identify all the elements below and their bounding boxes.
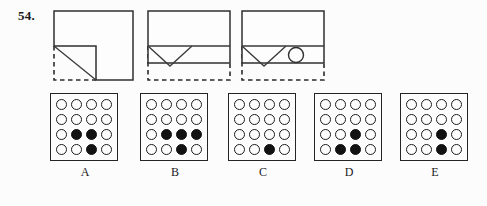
grid-cell — [318, 142, 333, 157]
grid-cell — [247, 142, 262, 157]
empty-hole-icon — [350, 114, 361, 125]
option-e-grid[interactable] — [400, 93, 468, 161]
grid-cell — [159, 142, 174, 157]
filled-hole-icon — [350, 129, 361, 140]
empty-hole-icon — [56, 99, 67, 110]
grid-cell — [449, 112, 464, 127]
grid-cell — [404, 142, 419, 157]
grid-cell — [262, 112, 277, 127]
grid-cell — [174, 127, 189, 142]
grid-cell — [262, 142, 277, 157]
empty-hole-icon — [146, 144, 157, 155]
grid-cell — [333, 97, 348, 112]
empty-hole-icon — [146, 114, 157, 125]
empty-hole-icon — [451, 114, 462, 125]
filled-hole-icon — [86, 129, 97, 140]
grid-cell — [84, 142, 99, 157]
grid-cell — [348, 97, 363, 112]
empty-hole-icon — [101, 144, 112, 155]
empty-hole-icon — [406, 99, 417, 110]
grid-cell — [434, 127, 449, 142]
empty-hole-icon — [71, 114, 82, 125]
question-number: 54. — [18, 8, 35, 24]
grid-cell — [348, 112, 363, 127]
grid-cell — [69, 97, 84, 112]
option-a[interactable]: A — [50, 93, 120, 178]
grid-cell — [99, 112, 114, 127]
grid-cell — [144, 97, 159, 112]
grid-cell — [277, 97, 292, 112]
empty-hole-icon — [451, 144, 462, 155]
fold-step-3 — [238, 8, 330, 84]
grid-cell — [69, 127, 84, 142]
grid-cell — [363, 127, 378, 142]
empty-hole-icon — [279, 144, 290, 155]
empty-hole-icon — [406, 144, 417, 155]
grid-cell — [232, 97, 247, 112]
grid-cell — [144, 127, 159, 142]
empty-hole-icon — [320, 114, 331, 125]
grid-cell — [419, 112, 434, 127]
empty-hole-icon — [279, 129, 290, 140]
grid-cell — [348, 127, 363, 142]
filled-hole-icon — [161, 129, 172, 140]
grid-cell — [277, 142, 292, 157]
empty-hole-icon — [365, 99, 376, 110]
filled-hole-icon — [176, 129, 187, 140]
grid-cell — [189, 112, 204, 127]
empty-hole-icon — [86, 114, 97, 125]
grid-cell — [174, 142, 189, 157]
empty-hole-icon — [421, 144, 432, 155]
grid-cell — [404, 97, 419, 112]
empty-hole-icon — [161, 99, 172, 110]
grid-cell — [99, 142, 114, 157]
option-a-grid[interactable] — [50, 93, 118, 161]
empty-hole-icon — [249, 129, 260, 140]
empty-hole-icon — [264, 114, 275, 125]
option-e[interactable]: E — [400, 93, 470, 178]
grid-cell — [159, 97, 174, 112]
answer-options-row: A B C D E — [50, 93, 487, 193]
grid-cell — [84, 112, 99, 127]
option-b[interactable]: B — [140, 93, 210, 178]
empty-hole-icon — [421, 114, 432, 125]
grid-cell — [434, 142, 449, 157]
grid-cell — [99, 127, 114, 142]
empty-hole-icon — [191, 144, 202, 155]
grid-cell — [404, 127, 419, 142]
fold-step-1 — [50, 8, 137, 84]
filled-hole-icon — [191, 129, 202, 140]
option-c[interactable]: C — [228, 93, 298, 178]
grid-cell — [333, 112, 348, 127]
grid-cell — [189, 127, 204, 142]
option-c-grid[interactable] — [228, 93, 296, 161]
filled-hole-icon — [436, 129, 447, 140]
grid-cell — [54, 142, 69, 157]
grid-cell — [404, 112, 419, 127]
grid-cell — [54, 112, 69, 127]
option-c-label: C — [228, 166, 298, 178]
paper-folding-sequence — [50, 8, 340, 84]
empty-hole-icon — [406, 129, 417, 140]
grid-cell — [247, 97, 262, 112]
grid-cell — [54, 97, 69, 112]
question-page: 54. — [0, 0, 487, 206]
option-d[interactable]: D — [314, 93, 384, 178]
grid-cell — [69, 142, 84, 157]
empty-hole-icon — [335, 129, 346, 140]
empty-hole-icon — [86, 99, 97, 110]
grid-cell — [189, 142, 204, 157]
grid-cell — [333, 127, 348, 142]
grid-cell — [232, 112, 247, 127]
empty-hole-icon — [264, 99, 275, 110]
empty-hole-icon — [56, 144, 67, 155]
empty-hole-icon — [249, 114, 260, 125]
option-d-grid[interactable] — [314, 93, 382, 161]
empty-hole-icon — [234, 114, 245, 125]
empty-hole-icon — [71, 144, 82, 155]
empty-hole-icon — [161, 114, 172, 125]
empty-hole-icon — [249, 99, 260, 110]
grid-cell — [247, 112, 262, 127]
option-b-grid[interactable] — [140, 93, 208, 161]
grid-cell — [419, 127, 434, 142]
